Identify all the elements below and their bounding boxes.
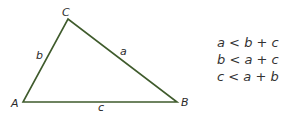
vertex-label-a: A — [10, 97, 19, 110]
operator: + — [255, 69, 266, 84]
triangle-abc — [23, 19, 177, 102]
operator: + — [257, 35, 268, 50]
inequality-3: c < a + b — [217, 69, 279, 84]
term: b — [244, 35, 252, 50]
side-label-a: a — [120, 45, 127, 58]
term: c — [217, 69, 224, 84]
term: b — [217, 52, 225, 67]
term: c — [272, 52, 279, 67]
inequality-2: b < a + c — [217, 52, 279, 67]
inequality-1: a < b + c — [217, 35, 279, 50]
term: c — [272, 35, 279, 50]
term: b — [271, 69, 279, 84]
operator: < — [228, 69, 239, 84]
side-label-c: c — [98, 101, 104, 113]
term: a — [217, 35, 225, 50]
term: a — [243, 69, 251, 84]
term: a — [244, 52, 252, 67]
operator: < — [229, 35, 240, 50]
side-label-b: b — [36, 49, 43, 62]
operator: < — [229, 52, 240, 67]
vertex-label-b: B — [181, 96, 189, 109]
operator: + — [257, 52, 268, 67]
vertex-label-c: C — [62, 6, 70, 19]
